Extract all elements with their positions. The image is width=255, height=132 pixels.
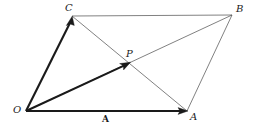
- edge-A-to-B: [187, 15, 232, 111]
- vector-diagram-figure: O A B C P A: [0, 0, 255, 132]
- edge-label-A: A: [102, 115, 109, 124]
- vertex-label-O: O: [13, 105, 21, 115]
- vector-O-to-P: [26, 62, 131, 111]
- vector-O-to-C: [26, 16, 74, 111]
- vertex-label-B: B: [236, 4, 243, 14]
- edge-C-to-B: [72, 15, 232, 16]
- vertex-label-P: P: [126, 49, 133, 59]
- vertex-label-A: A: [190, 112, 197, 122]
- vertex-label-C: C: [65, 3, 73, 13]
- diagram-canvas: [0, 0, 255, 132]
